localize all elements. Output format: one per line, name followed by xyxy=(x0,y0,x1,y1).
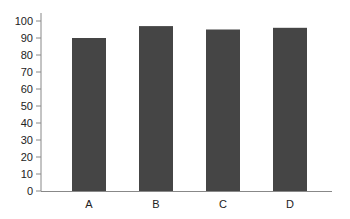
x-category-label: C xyxy=(219,198,227,210)
y-tick-label: 40 xyxy=(21,117,33,129)
y-tick-label: 20 xyxy=(21,151,33,163)
bar-b xyxy=(139,26,173,191)
y-tick-label: 0 xyxy=(27,185,33,197)
bar-d xyxy=(273,28,307,191)
y-tick-label: 90 xyxy=(21,32,33,44)
y-tick-label: 100 xyxy=(15,15,33,27)
y-tick-label: 10 xyxy=(21,168,33,180)
y-tick-label: 60 xyxy=(21,83,33,95)
x-category-label: A xyxy=(85,198,93,210)
bars xyxy=(72,26,307,191)
y-tick-label: 30 xyxy=(21,134,33,146)
y-tick-label: 50 xyxy=(21,100,33,112)
x-category-label: D xyxy=(286,198,294,210)
x-category-label: B xyxy=(152,198,159,210)
y-tick-label: 80 xyxy=(21,49,33,61)
bar-a xyxy=(72,38,106,191)
bar-c xyxy=(206,30,240,192)
y-axis: 0102030405060708090100 xyxy=(15,13,41,197)
y-tick-label: 70 xyxy=(21,66,33,78)
bar-chart: 0102030405060708090100 ABCD xyxy=(0,0,350,219)
x-axis: ABCD xyxy=(41,192,332,211)
